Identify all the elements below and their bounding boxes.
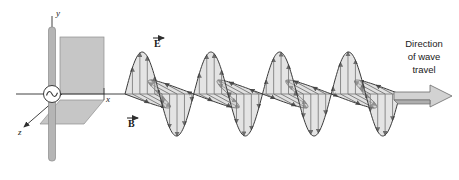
magnetic-field-label: B <box>128 118 135 129</box>
antenna-assembly: z y x <box>16 8 118 161</box>
figure-canvas: z y x E <box>0 0 459 180</box>
xy-plane-shading <box>60 37 104 94</box>
antenna-rod-lower <box>49 99 56 161</box>
direction-line-1: Direction <box>405 38 443 49</box>
direction-of-travel-annotation: Direction of wave travel <box>394 38 452 107</box>
z-axis-label: z <box>17 127 22 137</box>
em-wave-figure: z y x E <box>0 0 459 180</box>
e-field-wave <box>125 52 400 136</box>
wave-travel-arrow-side <box>394 100 430 104</box>
em-wave-group <box>118 52 408 136</box>
y-axis-label: y <box>55 8 60 18</box>
antenna-rod-upper <box>49 27 56 89</box>
x-axis-label: x <box>105 94 110 104</box>
direction-line-3: travel <box>412 64 435 75</box>
electric-field-label: E <box>154 38 161 49</box>
direction-line-2: of wave <box>408 51 441 62</box>
